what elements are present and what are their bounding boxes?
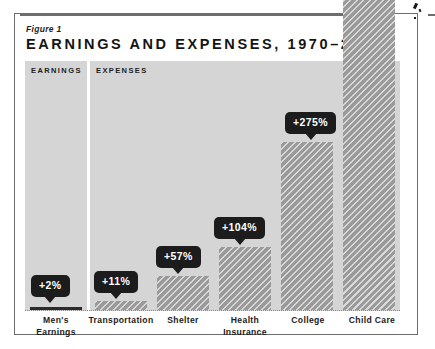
axis-baseline	[25, 310, 400, 311]
bar-health-insurance	[219, 247, 271, 310]
tick-label-line: Insurance	[212, 327, 278, 339]
tick-label-line: Earnings	[24, 327, 88, 339]
tick-label-line: Shelter	[151, 315, 215, 327]
callout-mens-earnings: +2%	[31, 275, 70, 297]
tick-label-college: College	[276, 315, 340, 327]
tick-label-transportation: Transportation	[82, 315, 160, 327]
bar-transportation	[95, 301, 147, 310]
tick-label-mens-earnings: Men'sEarnings	[24, 315, 88, 338]
tick-label-line: Transportation	[82, 315, 160, 327]
bar-child-care	[343, 0, 395, 310]
tick-label-line: Men's	[24, 315, 88, 327]
bars-layer	[0, 0, 435, 310]
tick-label-health-insurance: HealthInsurance	[212, 315, 278, 338]
tick-label-shelter: Shelter	[151, 315, 215, 327]
callout-shelter: +57%	[156, 246, 201, 268]
bar-college	[281, 142, 333, 310]
figure-root: Figure 1 EARNINGS AND EXPENSES, 1970–201…	[0, 0, 435, 349]
tick-label-line: Child Care	[337, 315, 407, 327]
tick-label-line: Health	[212, 315, 278, 327]
bar-shelter	[157, 276, 209, 310]
callout-health-insurance: +104%	[214, 217, 265, 239]
tick-label-child-care: Child Care	[337, 315, 407, 327]
tick-label-line: College	[276, 315, 340, 327]
callout-transportation: +11%	[94, 271, 138, 293]
callout-college: +275%	[285, 112, 336, 134]
